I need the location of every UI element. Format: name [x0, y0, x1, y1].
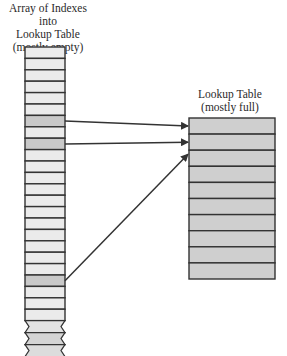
lookup-cell [189, 182, 275, 198]
index-cell-empty [25, 252, 65, 263]
index-cell-empty [25, 264, 65, 275]
index-array-continuation [25, 321, 65, 356]
index-cell-truncated [25, 345, 65, 356]
lookup-cell [189, 215, 275, 231]
index-cell-empty [25, 229, 65, 240]
index-cell-empty [25, 184, 65, 195]
index-arrows [65, 121, 188, 281]
index-cell-filled [25, 115, 65, 126]
lookup-cell [189, 166, 275, 182]
index-cell-empty [25, 58, 65, 69]
lookup-cell [189, 199, 275, 215]
index-cell-filled [25, 138, 65, 149]
lookup-cell [189, 247, 275, 263]
index-array [25, 47, 65, 321]
lookup-cell [189, 263, 275, 279]
index-cell-empty [25, 218, 65, 229]
index-cell-empty [25, 195, 65, 206]
index-cell-empty [25, 150, 65, 161]
index-arrow [65, 121, 188, 126]
lookup-cell [189, 231, 275, 247]
index-arrow [65, 154, 188, 281]
index-cell-truncated [25, 321, 65, 333]
index-cell-filled [25, 275, 65, 286]
index-arrow [65, 142, 188, 144]
lookup-cell [189, 150, 275, 166]
lookup-table [189, 118, 275, 279]
index-cell-empty [25, 241, 65, 252]
lookup-cell [189, 134, 275, 150]
index-cell-empty [25, 47, 65, 58]
index-cell-empty [25, 298, 65, 309]
index-cell-empty [25, 207, 65, 218]
index-cell-empty [25, 127, 65, 138]
index-lookup-diagram [0, 0, 287, 356]
lookup-cell [189, 118, 275, 134]
index-cell-empty [25, 286, 65, 297]
index-cell-empty [25, 81, 65, 92]
index-cell-truncated [25, 333, 65, 345]
index-cell-empty [25, 161, 65, 172]
index-cell-empty [25, 309, 65, 320]
index-cell-empty [25, 104, 65, 115]
index-cell-empty [25, 172, 65, 183]
index-cell-empty [25, 70, 65, 81]
index-cell-empty [25, 93, 65, 104]
